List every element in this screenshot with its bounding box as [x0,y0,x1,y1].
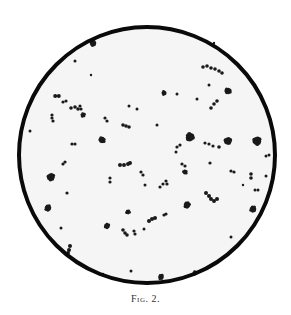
organism-single [144,184,147,187]
organism-single [230,236,233,239]
organism-single [130,270,133,273]
organism-single [175,151,178,154]
organism-single [143,228,146,231]
figure: Fig. 2. [0,0,291,315]
organism-single [65,191,68,194]
organism-single [60,227,63,230]
organism-clump [158,274,164,280]
organism-single [136,108,139,111]
organism-single [242,184,244,186]
organism-single [208,161,211,164]
organism-single [128,105,131,108]
caption-number: 2. [151,293,160,304]
organism-single [156,124,159,127]
organism-single [74,60,77,63]
organism-single [29,130,32,133]
organism-single [265,175,268,178]
caption-prefix: Fig. [131,293,148,304]
organism-single [176,93,179,96]
organism-single [217,145,221,149]
figure-caption: Fig. 2. [0,293,291,304]
organism-single [196,98,199,101]
organism-single [208,84,211,87]
organism-single [90,74,92,76]
microscope-field [0,0,291,295]
